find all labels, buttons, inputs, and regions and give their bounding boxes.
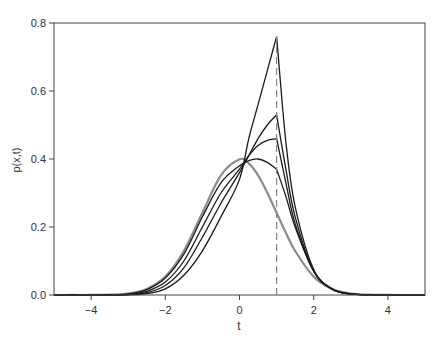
series-line-curve-2 <box>54 139 425 295</box>
y-axis-label: p(x,t) <box>10 147 22 172</box>
y-tick-label: 0.8 <box>31 17 46 29</box>
x-tick-label: −2 <box>159 304 172 316</box>
y-tick-label: 0.4 <box>31 153 46 165</box>
x-tick-label: 4 <box>385 304 391 316</box>
chart: −4−2024 0.00.20.40.60.8 t p(x,t) <box>0 0 442 338</box>
x-axis-label: t <box>237 319 241 333</box>
series-line-curve-3 <box>54 115 425 295</box>
plot-lines <box>54 37 425 295</box>
x-tick-label: −4 <box>85 304 98 316</box>
x-tick-label: 2 <box>311 304 317 316</box>
x-axis: −4−2024 <box>85 295 391 316</box>
x-tick-label: 0 <box>236 304 242 316</box>
y-tick-label: 0.2 <box>31 221 46 233</box>
y-axis: 0.00.20.40.60.8 <box>31 17 54 301</box>
y-tick-label: 0.0 <box>31 289 46 301</box>
y-tick-label: 0.6 <box>31 85 46 97</box>
